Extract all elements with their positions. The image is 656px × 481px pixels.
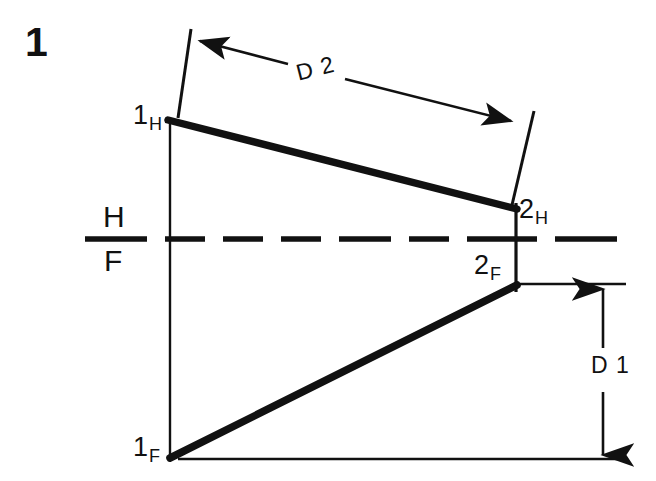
dimension-label-d1: D 1 <box>588 354 633 377</box>
point-label-2f-main: 2 <box>474 250 489 280</box>
point-label-1h-sub: H <box>149 114 162 134</box>
front-view-object-line <box>170 285 517 458</box>
d2-dimension-line-right <box>345 79 511 121</box>
point-label-1f-main: 1 <box>133 432 148 462</box>
point-label-2f-sub: F <box>490 264 501 284</box>
top-view-object-line <box>168 120 517 209</box>
point-label-1h: 1H <box>133 102 161 129</box>
frontal-plane-label: F <box>104 246 122 276</box>
d2-left-extension-line <box>178 29 191 118</box>
point-label-2h-sub: H <box>535 208 548 228</box>
horizontal-plane-label: H <box>103 202 125 232</box>
point-label-2h-main: 2 <box>519 194 534 224</box>
point-label-2h: 2H <box>519 196 547 223</box>
point-label-1f-sub: F <box>149 446 160 466</box>
point-label-2f: 2F <box>474 252 500 279</box>
point-label-1h-main: 1 <box>133 100 148 130</box>
d2-dimension-line-left <box>200 41 288 64</box>
d2-right-extension-line <box>512 111 534 205</box>
point-label-1f: 1F <box>133 434 159 461</box>
figure-number: 1 <box>25 22 47 63</box>
technical-drawing-canvas: 1 1H 2H 2F 1F H F D 2 D 1 <box>0 0 656 481</box>
